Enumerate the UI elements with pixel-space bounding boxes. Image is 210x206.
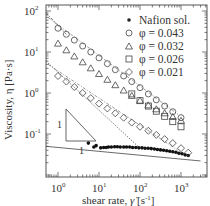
x-tick-label: 100 bbox=[51, 181, 66, 194]
svg-text:φ = 0.021: φ = 0.021 bbox=[139, 66, 184, 79]
svg-text:Nafion sol.: Nafion sol. bbox=[139, 14, 190, 26]
legend-item-phi-0043: φ = 0.043 bbox=[126, 27, 184, 40]
slope-horizontal-label: 1 bbox=[79, 145, 84, 156]
y-axis-label: Viscosity, η [Pa·s] bbox=[2, 60, 14, 140]
legend-item-phi-0032: φ = 0.032 bbox=[126, 40, 184, 53]
legend-item-phi-0026: φ = 0.026 bbox=[126, 53, 184, 66]
y-tick-labels: 102 101 100 10-1 bbox=[24, 4, 41, 140]
x-tick-label: 103 bbox=[174, 181, 189, 194]
y-tick-label: 102 bbox=[24, 4, 39, 17]
svg-text:φ = 0.043: φ = 0.043 bbox=[139, 27, 184, 40]
legend: Nafion sol. φ = 0.043 φ = 0.032 φ = 0.02… bbox=[126, 14, 191, 79]
y-tick-label: 101 bbox=[24, 45, 39, 58]
x-tick-label: 102 bbox=[133, 181, 148, 194]
y-tick-label: 100 bbox=[24, 86, 39, 99]
svg-text:φ = 0.032: φ = 0.032 bbox=[139, 40, 184, 53]
x-tick-labels: 100 101 102 103 bbox=[51, 181, 189, 194]
legend-item-phi-0021: φ = 0.021 bbox=[126, 66, 184, 79]
x-axis-label: shear rate, γ̇ [s-1] bbox=[82, 194, 155, 206]
x-tick-label: 101 bbox=[92, 181, 107, 194]
viscosity-chart: 1 1 102 101 100 10-1 100 101 102 103 Vis… bbox=[0, 0, 210, 206]
y-tick-label: 10-1 bbox=[24, 127, 41, 140]
slope-vertical-label: 1 bbox=[57, 119, 62, 130]
svg-text:φ = 0.026: φ = 0.026 bbox=[139, 53, 184, 66]
legend-item-nafion: Nafion sol. bbox=[127, 14, 190, 26]
